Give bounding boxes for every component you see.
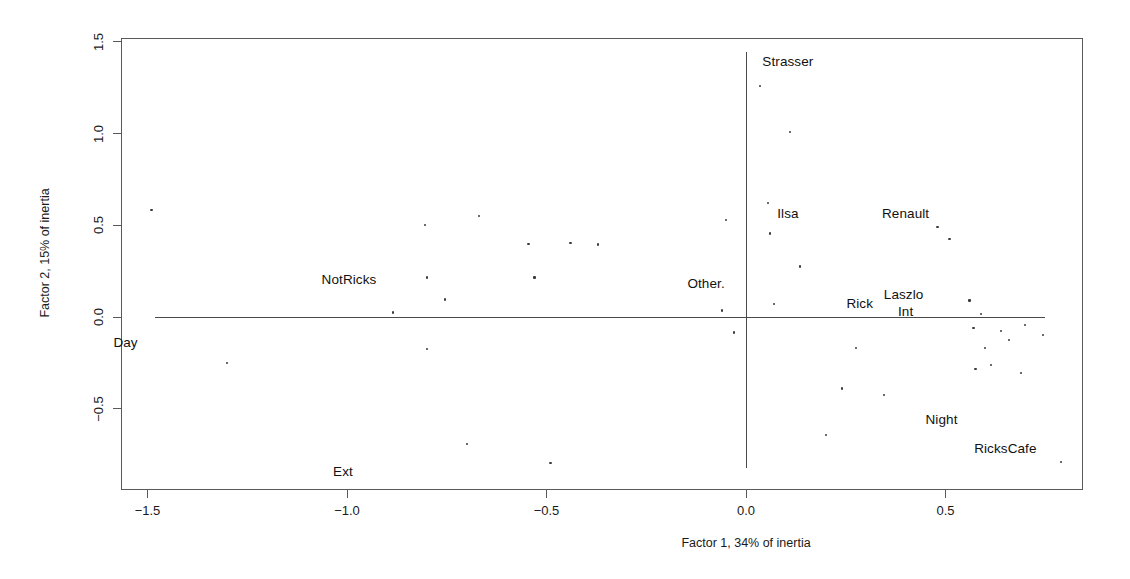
point-label: Renault <box>882 206 929 221</box>
x-tick-label: −1.5 <box>135 503 161 518</box>
y-tick-label: 0.5 <box>91 216 106 234</box>
point-label: RicksCafe <box>974 441 1036 456</box>
point-label: Rick <box>846 296 873 311</box>
y-tick <box>113 41 121 42</box>
data-point <box>725 219 727 221</box>
data-point <box>769 232 771 234</box>
data-point <box>968 299 970 301</box>
x-tick-label: 0.5 <box>936 503 954 518</box>
point-label: Int <box>898 304 913 319</box>
point-label: Other. <box>687 276 724 291</box>
x-tick-label: 0.0 <box>737 503 755 518</box>
y-axis-title: Factor 2, 15% of inertia <box>38 188 52 317</box>
data-point <box>549 462 551 464</box>
data-point <box>799 265 801 267</box>
x-tick <box>347 490 348 498</box>
x-tick-label: −0.5 <box>534 503 560 518</box>
point-label: Strasser <box>762 54 813 69</box>
point-label: Laszlo <box>884 287 924 302</box>
y-tick <box>113 225 121 226</box>
data-point <box>721 309 723 311</box>
y-tick-label: −0.5 <box>91 396 106 422</box>
y-tick <box>113 317 121 318</box>
x-tick <box>746 490 747 498</box>
x-tick <box>945 490 946 498</box>
data-point <box>426 276 428 278</box>
y-tick-label: 1.0 <box>91 124 106 142</box>
data-point <box>569 242 571 244</box>
y-tick-label: 0.0 <box>91 308 106 326</box>
y-tick <box>113 133 121 134</box>
x-axis-title: Factor 1, 34% of inertia <box>681 536 810 550</box>
point-label: Ext <box>333 464 353 479</box>
data-point <box>936 226 938 228</box>
data-point <box>533 276 535 278</box>
point-label: NotRicks <box>322 272 377 287</box>
data-point <box>466 443 468 445</box>
data-point <box>527 243 529 245</box>
y-tick <box>113 408 121 409</box>
data-point <box>841 387 843 389</box>
data-point <box>150 209 152 211</box>
data-point <box>733 331 735 333</box>
data-point <box>478 215 480 217</box>
y-tick-label: 1.5 <box>91 33 106 51</box>
chart-canvas: −1.5−1.0−0.50.00.5−0.50.00.51.01.5 Stras… <box>0 0 1130 579</box>
data-point <box>759 85 761 87</box>
data-point <box>392 311 394 313</box>
data-point <box>789 131 791 133</box>
x-tick <box>147 490 148 498</box>
point-label: Ilsa <box>777 206 798 221</box>
x-tick <box>546 490 547 498</box>
point-label: Night <box>925 411 957 426</box>
data-point <box>972 327 974 329</box>
data-point <box>444 298 446 300</box>
data-point <box>948 238 950 240</box>
vertical-zero-line <box>746 52 747 468</box>
x-tick-label: −1.0 <box>334 503 360 518</box>
point-label: Day <box>113 334 137 349</box>
data-point <box>883 394 885 396</box>
